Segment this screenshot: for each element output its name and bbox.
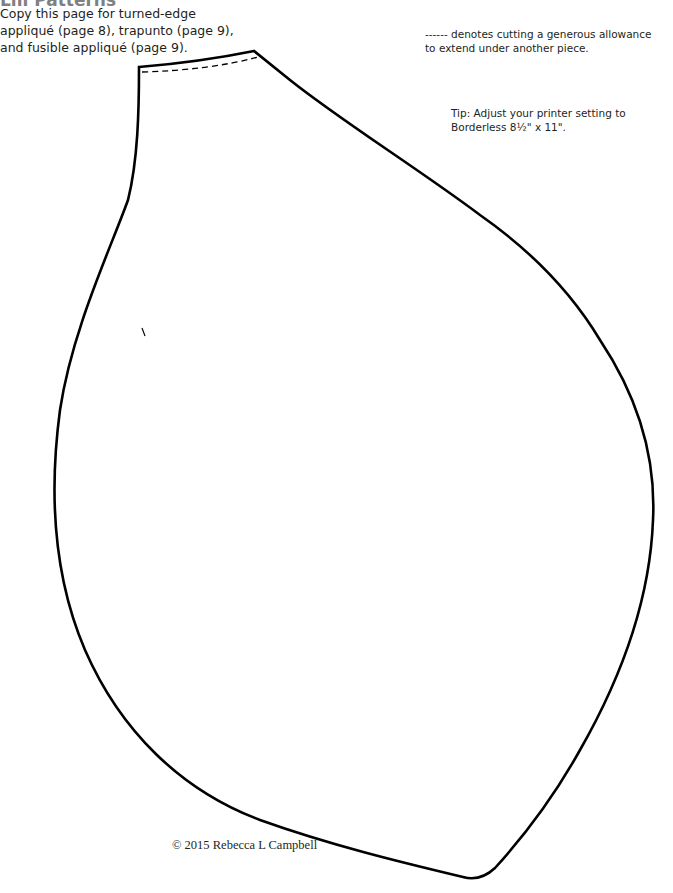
petal-outline — [54, 51, 653, 878]
copyright-notice: © 2015 Rebecca L Campbell — [172, 838, 317, 853]
placement-mark-icon — [142, 328, 145, 336]
petal-pattern — [0, 0, 673, 893]
